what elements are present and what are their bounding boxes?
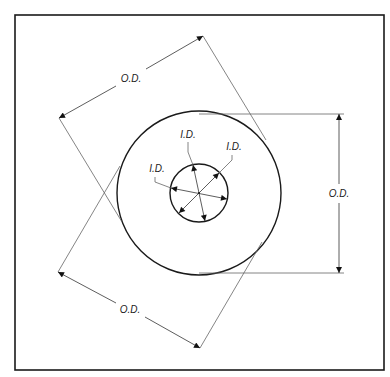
od-top-left-dimension-line-b bbox=[146, 36, 203, 69]
od-bottom-left-dimension-line-a bbox=[58, 272, 116, 303]
id-top-right-label: I.D. bbox=[226, 141, 242, 152]
od-bottom-left-label: O.D. bbox=[120, 304, 141, 315]
id-top-label: I.D. bbox=[180, 129, 196, 140]
id-left-label: I.D. bbox=[149, 163, 165, 174]
od-top-left-label: O.D. bbox=[121, 73, 142, 84]
od-bottom-left-extension-right bbox=[200, 242, 262, 348]
od-bottom-left-extension-left bbox=[58, 166, 120, 272]
center-point bbox=[198, 192, 200, 194]
pipe-diameter-diagram: O.D. O.D. O.D. I.D. I.D. I.D. bbox=[0, 0, 390, 377]
od-right-label: O.D. bbox=[329, 188, 350, 199]
od-top-left-extension-right bbox=[203, 36, 266, 140]
od-bottom-left-dimension-line-b bbox=[145, 317, 200, 348]
id-top-leader bbox=[188, 142, 193, 165]
id-left-leader bbox=[155, 177, 171, 188]
od-top-left-dimension-line-a bbox=[59, 86, 116, 118]
id-top-right-leader bbox=[219, 155, 232, 173]
od-top-left-extension-left bbox=[59, 118, 122, 222]
